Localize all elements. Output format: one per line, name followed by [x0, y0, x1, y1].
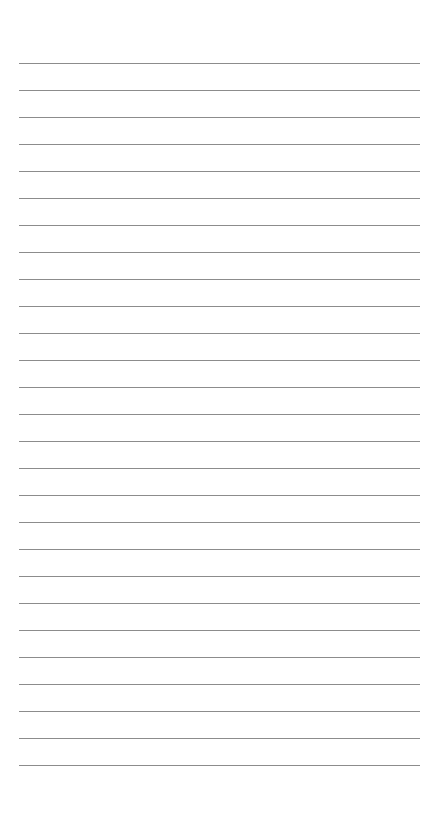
ruled-line: [19, 90, 420, 91]
ruled-line: [19, 495, 420, 496]
ruled-line: [19, 468, 420, 469]
ruled-line: [19, 225, 420, 226]
ruled-line: [19, 522, 420, 523]
ruled-line: [19, 684, 420, 685]
ruled-line: [19, 549, 420, 550]
ruled-line: [19, 279, 420, 280]
ruled-line: [19, 711, 420, 712]
ruled-line: [19, 171, 420, 172]
ruled-line: [19, 63, 420, 64]
ruled-line: [19, 441, 420, 442]
ruled-line: [19, 657, 420, 658]
ruled-line: [19, 306, 420, 307]
ruled-line: [19, 198, 420, 199]
ruled-line: [19, 765, 420, 766]
ruled-line: [19, 414, 420, 415]
ruled-line: [19, 738, 420, 739]
ruled-line: [19, 117, 420, 118]
ruled-line: [19, 360, 420, 361]
ruled-line: [19, 387, 420, 388]
ruled-line: [19, 630, 420, 631]
ruled-line: [19, 252, 420, 253]
ruled-line: [19, 333, 420, 334]
ruled-paper-page: [0, 0, 437, 815]
ruled-line: [19, 603, 420, 604]
ruled-line: [19, 144, 420, 145]
ruled-line: [19, 576, 420, 577]
